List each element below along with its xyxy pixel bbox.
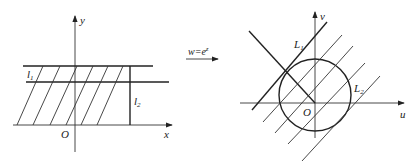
l2-label: l2 (134, 95, 141, 109)
mapping-arrow: w=ez (186, 45, 218, 59)
L2-label: L2 (353, 82, 364, 96)
origin-label: O (61, 128, 69, 140)
conformal-mapping-diagram: y x O l1 l2 w=ez v u O L1 L2 (0, 0, 415, 168)
hatch-line (66, 66, 93, 125)
u-axis-label: u (400, 108, 406, 120)
right-hatch-lines (263, 35, 380, 161)
hatch-line (97, 66, 123, 125)
mapping-label: w=ez (188, 45, 209, 57)
origin-label-w: O (303, 106, 311, 118)
line-L1 (252, 22, 327, 110)
hatch-line (33, 66, 60, 125)
w-plane: v u O L1 L2 (240, 10, 406, 161)
x-axis-label: x (163, 128, 169, 140)
y-axis-label: y (79, 14, 85, 26)
hatch-line (81, 66, 108, 125)
l1-label: l1 (27, 68, 34, 82)
z-plane: y x O l1 l2 (13, 14, 172, 152)
hatch-line (50, 66, 77, 125)
v-axis-label: v (320, 10, 325, 22)
L1-label: L1 (293, 38, 304, 52)
ray-line (249, 31, 315, 103)
